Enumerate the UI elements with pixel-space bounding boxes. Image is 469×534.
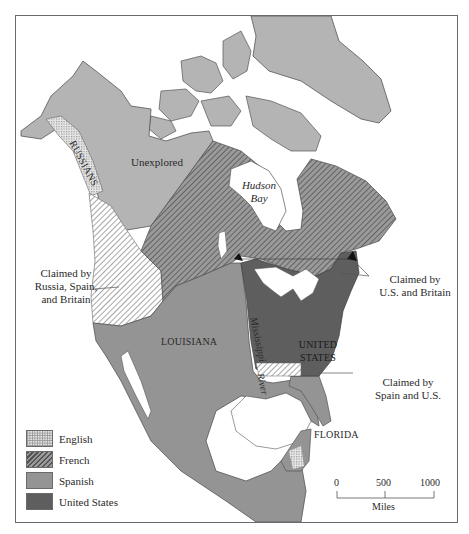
scale-tick-1000: 1000 — [420, 476, 440, 489]
arctic-islands — [181, 56, 223, 93]
spanish-swatch-icon — [26, 472, 53, 489]
legend-label: English — [59, 433, 93, 445]
callout-spain-us: Claimed by Spain and U.S. — [368, 376, 448, 402]
legend-label: United States — [59, 496, 118, 508]
english-swatch-icon — [26, 430, 53, 447]
callout-line: Claimed by — [25, 267, 107, 280]
callout-us-britain: Claimed by U.S. and Britain — [371, 273, 458, 299]
scale-tick-500: 500 — [376, 476, 391, 489]
callout-line: and Britain — [25, 293, 107, 306]
label-united-states: UNITED STATES — [288, 338, 348, 364]
united-states-swatch-icon — [26, 493, 53, 510]
scale-unit: Miles — [372, 500, 395, 513]
scale-bar: 0 500 1000 Miles — [334, 476, 444, 516]
legend-label: Spanish — [59, 475, 94, 487]
legend-item-french: French — [26, 449, 118, 470]
label-us-line1: UNITED — [288, 338, 348, 351]
legend: English French Spanish United States — [26, 428, 118, 512]
legend-label: French — [59, 454, 90, 466]
french-swatch-icon — [26, 451, 53, 468]
callout-line: Claimed by — [371, 273, 458, 286]
legend-item-english: English — [26, 428, 118, 449]
callout-russia-spain-britain: Claimed by Russia, Spain, and Britain — [25, 267, 107, 306]
scale-tick-0: 0 — [334, 476, 339, 489]
label-louisiana: LOUISIANA — [161, 335, 217, 348]
label-unexplored: Unexplored — [131, 156, 183, 169]
callout-line: Spain and U.S. — [368, 389, 448, 402]
callout-line: U.S. and Britain — [371, 286, 458, 299]
label-hudson-line2: Bay — [239, 192, 279, 205]
label-us-line2: STATES — [288, 351, 348, 364]
legend-item-spanish: Spanish — [26, 470, 118, 491]
label-hudson-bay: Hudson Bay — [239, 179, 279, 205]
label-hudson-line1: Hudson — [239, 179, 279, 192]
callout-line: Russia, Spain, — [25, 280, 107, 293]
legend-item-united-states: United States — [26, 491, 118, 512]
label-florida: FLORIDA — [314, 428, 359, 441]
callout-line: Claimed by — [368, 376, 448, 389]
